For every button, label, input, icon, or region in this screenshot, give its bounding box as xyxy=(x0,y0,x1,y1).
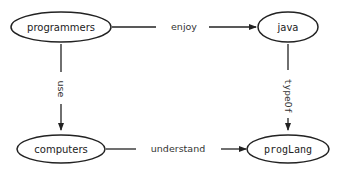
node-programmers: programmers xyxy=(11,12,111,42)
node-label-java: java xyxy=(277,22,299,33)
edge-use: use xyxy=(56,44,67,130)
edge-understand: understand xyxy=(106,143,246,154)
edge-label-enjoy: enjoy xyxy=(171,21,197,32)
node-label-computers: computers xyxy=(34,144,87,155)
edge-label-typeOf: typeOf xyxy=(283,79,294,113)
node-java: java xyxy=(258,12,318,42)
concept-graph: enjoy use typeOf understand programmers … xyxy=(0,0,339,174)
node-label-programmers: programmers xyxy=(27,22,95,33)
edge-label-use: use xyxy=(56,81,67,98)
node-progLang: progLang xyxy=(247,135,329,163)
node-computers: computers xyxy=(17,135,105,163)
edge-typeOf: typeOf xyxy=(283,44,294,130)
node-label-progLang: progLang xyxy=(264,144,312,155)
edge-enjoy: enjoy xyxy=(112,21,256,32)
edge-label-understand: understand xyxy=(151,143,205,154)
